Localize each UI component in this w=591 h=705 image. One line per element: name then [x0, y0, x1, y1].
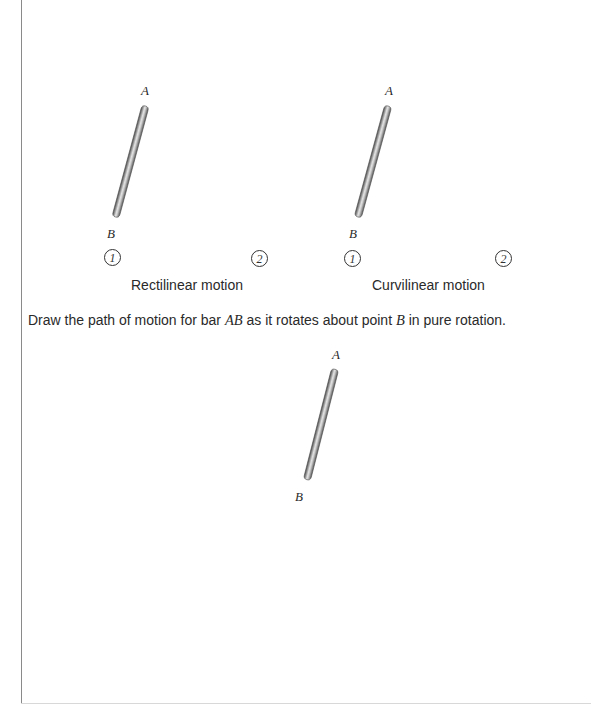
point-b-label-rectilinear: B	[107, 227, 115, 240]
bar-ab-curvilinear	[354, 105, 391, 218]
point-a-label-rectilinear: A	[141, 84, 149, 97]
instruction-part-1: Draw the path of motion for bar	[28, 312, 225, 328]
position-1-marker-rectilinear: 1	[104, 249, 121, 266]
point-name: B	[396, 312, 405, 328]
bar-ab-rotation	[303, 368, 338, 480]
instruction-part-2: as it rotates about point	[243, 312, 396, 328]
point-b-label-rotation: B	[295, 490, 303, 503]
caption-rectilinear-motion: Rectilinear motion	[131, 278, 243, 292]
caption-curvilinear-motion: Curvilinear motion	[372, 278, 485, 292]
position-1-marker-curvilinear: 1	[344, 250, 361, 267]
point-a-label-rotation: A	[332, 348, 340, 361]
instruction-part-3: in pure rotation.	[405, 312, 506, 328]
bars-figure	[0, 0, 591, 705]
instruction-text: Draw the path of motion for bar AB as it…	[28, 313, 506, 328]
position-2-marker-curvilinear: 2	[495, 250, 512, 267]
position-2-marker-rectilinear: 2	[251, 250, 268, 267]
bar-ab-rectilinear	[112, 105, 149, 218]
bar-name: AB	[225, 312, 243, 328]
point-a-label-curvilinear: A	[385, 84, 393, 97]
point-b-label-curvilinear: B	[349, 227, 357, 240]
